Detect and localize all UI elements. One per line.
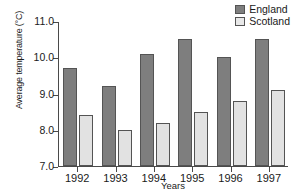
bar-england-1993 (102, 86, 116, 166)
legend-item-england: England (235, 4, 290, 15)
bar-scotland-1995 (194, 112, 208, 166)
bar-england-1995 (178, 39, 192, 166)
bar-england-1996 (217, 57, 231, 166)
bar-england-1992 (63, 68, 77, 166)
bar-scotland-1992 (79, 115, 93, 166)
y-tick-label: 10.0 (34, 51, 54, 63)
bar-scotland-1996 (233, 101, 247, 166)
y-tick-label: 11.0 (34, 15, 54, 27)
bar-england-1997 (255, 39, 269, 166)
y-tick-label: 7.0 (39, 160, 54, 172)
plot-area: 11.010.09.08.07.0 1992199319941995199619… (58, 22, 288, 167)
y-tick-label: 9.0 (39, 88, 54, 100)
legend-swatch-england (235, 5, 245, 14)
bars-layer (59, 22, 288, 166)
bar-scotland-1997 (271, 90, 285, 166)
x-axis-line (58, 166, 288, 167)
legend-label-england: England (249, 4, 288, 15)
bar-scotland-1993 (118, 130, 132, 166)
bar-scotland-1994 (156, 123, 170, 167)
y-axis-title: Average temperature (°C) (14, 0, 24, 135)
bar-england-1994 (140, 54, 154, 166)
bar-chart: Average temperature (°C) England Scotlan… (0, 0, 296, 195)
x-axis-title: Years (58, 180, 288, 191)
y-tick-label: 8.0 (39, 124, 54, 136)
